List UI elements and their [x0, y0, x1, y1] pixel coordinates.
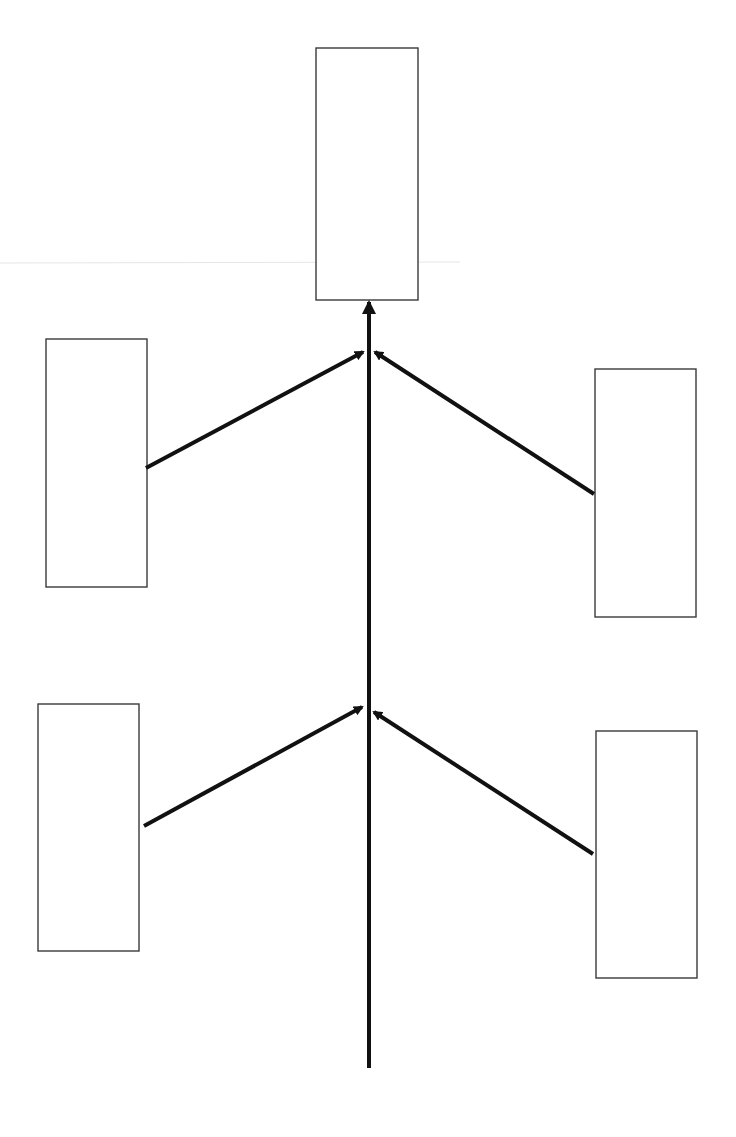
- box-lower-right-rect: [596, 731, 697, 978]
- box-lower-left-rect: [38, 704, 139, 951]
- box-upper-right: [595, 369, 696, 617]
- box-outcome-rect: [316, 48, 418, 300]
- box-upper-right-rect: [595, 369, 696, 617]
- box-upper-left-rect: [46, 339, 147, 587]
- diagram-canvas: [0, 0, 736, 1137]
- box-lower-left: [38, 704, 139, 951]
- box-upper-left: [46, 339, 147, 587]
- box-lower-right: [596, 731, 697, 978]
- upper-left-branch-arrow: [146, 352, 363, 468]
- lower-left-branch-arrow: [144, 707, 362, 826]
- upper-right-branch-arrow: [375, 352, 594, 494]
- lower-right-branch-arrow: [374, 712, 593, 854]
- box-outcome: [316, 48, 418, 300]
